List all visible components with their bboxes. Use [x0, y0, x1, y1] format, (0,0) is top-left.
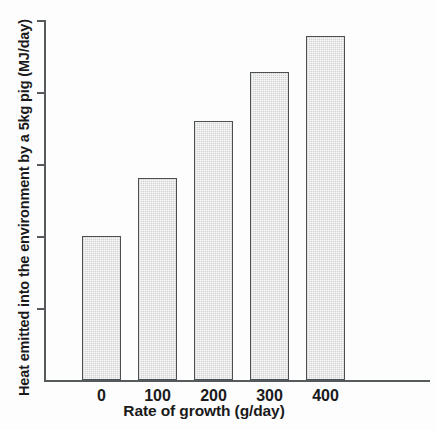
y-axis-title: Heat emitted into the environment by a 5… [0, 0, 20, 400]
y-axis-title-text: Heat emitted into the environment by a 5… [17, 4, 32, 396]
bar-category-400 [306, 36, 345, 380]
x-tick-label-4: 400 [296, 388, 355, 404]
y-tick-mark-2 [37, 236, 44, 238]
bar-category-300 [250, 72, 289, 380]
y-tick-mark-1 [37, 308, 44, 310]
y-tick-mark-5 [37, 20, 44, 22]
y-axis-line [44, 20, 46, 382]
bar-category-200 [194, 121, 233, 380]
x-axis-line [44, 380, 430, 382]
bar-chart-figure: Heat emitted into the environment by a 5… [0, 0, 436, 430]
x-tick-label-0: 0 [72, 388, 131, 404]
bar-category-100 [138, 178, 177, 380]
x-axis-title: Rate of growth (g/day) [44, 403, 364, 419]
y-tick-mark-4 [37, 92, 44, 94]
plot-area: 0 100 200 300 400 [44, 20, 430, 382]
y-tick-mark-3 [37, 164, 44, 166]
bar-category-0 [82, 236, 121, 380]
